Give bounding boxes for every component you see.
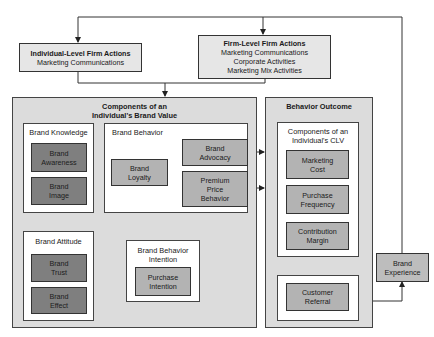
customer-referral-box: Customer Referral — [286, 283, 349, 311]
firm-actions-title: Firm-Level Firm Actions — [223, 39, 305, 48]
clv-title: Components of an Individual's CLV — [277, 127, 359, 145]
purchase-intention-box: Purchase Intention — [135, 267, 191, 296]
contribution-margin-box: Contribution Margin — [286, 222, 349, 250]
brand-loyalty-box: Brand Loyalty — [111, 159, 168, 186]
behavior-outcome-title: Behavior Outcome — [265, 102, 373, 111]
brand-advocacy-box: Brand Advocacy — [182, 139, 248, 166]
premium-price-behavior-box: Premium Price Behavior — [182, 171, 248, 207]
firm-actions-item: Marketing Mix Activities — [227, 66, 302, 75]
brand-behavior-title: Brand Behavior — [112, 128, 163, 137]
firm-actions-item: Marketing Communications — [221, 48, 308, 57]
firm-level-firm-actions: Firm-Level Firm Actions Marketing Commun… — [198, 35, 331, 79]
brand-value-title: Components of an Individual's Brand Valu… — [12, 102, 257, 120]
individual-actions-item: Marketing Communications — [37, 58, 124, 67]
firm-actions-item: Corporate Activities — [234, 57, 296, 66]
brand-behavior-intention-title: Brand Behavior Intention — [126, 246, 200, 264]
individual-actions-title: Individual-Level Firm Actions — [31, 49, 131, 58]
brand-experience-box: Brand Experience — [376, 253, 429, 282]
individual-level-firm-actions: Individual-Level Firm Actions Marketing … — [19, 43, 142, 72]
brand-attitude-title: Brand Attitude — [23, 237, 94, 246]
brand-effect-box: Brand Effect — [31, 287, 87, 314]
brand-image-box: Brand Image — [31, 177, 87, 205]
brand-knowledge-title: Brand Knowledge — [23, 128, 94, 137]
brand-trust-box: Brand Trust — [31, 254, 87, 282]
marketing-cost-box: Marketing Cost — [286, 150, 349, 179]
brand-awareness-box: Brand Awareness — [31, 143, 87, 172]
purchase-frequency-box: Purchase Frequency — [286, 185, 349, 214]
